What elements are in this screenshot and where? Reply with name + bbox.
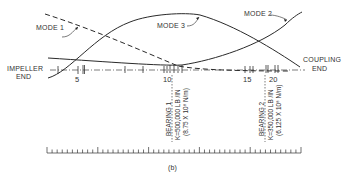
mode-3-label: MODE 3 [157,22,185,29]
coupling-end-label-line2: END [312,65,327,72]
rotor-mode-shape-diagram: MODE 1 MODE 3 MODE 2 IMPELLER END COUPLI… [0,0,345,176]
bearing-1-label-group: BEARING 1 K=500,000 LB /IN (8.75 X 10⁸ N… [165,88,190,140]
mode-2-label: MODE 2 [244,10,272,17]
station-label-20: 20 [269,75,277,84]
coupling-end-label-line1: COUPLING [303,56,341,63]
bearing-1-stiffness-english: K=500,000 LB /IN [174,89,181,140]
bearing-2-name: BEARING 2 [258,101,265,136]
bearing-2-stiffness-si: (6.125 X 10⁸ N/m) [275,85,283,136]
station-label-10: 10 [163,75,171,84]
impeller-end-label-line1: IMPELLER [7,65,43,72]
scale-ruler [47,147,301,153]
subfigure-label: (b) [168,164,177,172]
mode-1-label: MODE 1 [36,24,64,31]
impeller-end-label-line2: END [16,73,31,80]
bearing-2-label-group: BEARING 2 K=350,000 LB /IN (6.125 X 10⁸ … [258,85,283,140]
bearing-2-stiffness-english: K=350,000 LB /IN [267,89,274,140]
mode-2-curve [48,12,302,65]
bearing-1-name: BEARING 1 [165,101,172,136]
shaft-station-ticks [58,65,278,74]
bearing-1-stiffness-si: (8.75 X 10⁸ N/m) [182,88,190,136]
station-label-15: 15 [243,75,251,84]
station-label-5: 5 [75,75,79,84]
